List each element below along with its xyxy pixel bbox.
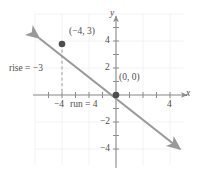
rise-annotation: rise = −3 [9,64,43,74]
point-marker-origin [113,92,120,99]
y-tick-label-4: 4 [105,36,110,46]
coordinate-graph-figure: x y (−4, 3) (0, 0) rise = −3 run = 4 −4 … [0,0,200,181]
x-axis-label: x [186,89,190,99]
y-axis-label: y [110,9,114,19]
y-tick-label-neg4: −4 [100,144,110,154]
x-tick-label-4: 4 [167,100,172,110]
y-tick-label-2: 2 [105,63,110,73]
run-annotation: run = 4 [70,100,98,110]
point-marker-neg4-3 [59,41,66,48]
x-tick-label-neg4: −4 [54,100,64,110]
plotted-line [39,38,180,149]
graph-canvas [0,0,200,181]
point-label-neg4-3: (−4, 3) [69,27,95,37]
y-tick-label-neg2: −2 [100,117,110,127]
point-label-origin: (0, 0) [119,73,140,83]
